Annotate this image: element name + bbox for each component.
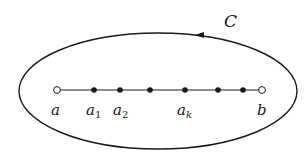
svg-text:a2: a2 <box>113 101 128 120</box>
point-subscript: 2 <box>122 109 128 120</box>
point-label: a <box>113 101 122 119</box>
point-subscript: 1 <box>95 109 101 120</box>
point-label: a <box>177 101 186 119</box>
point-6 <box>215 87 221 93</box>
svg-text:ak: ak <box>177 101 192 120</box>
contour-diagram: C a a1 a2 ak b <box>0 0 307 162</box>
point-a: a <box>51 87 60 119</box>
point-subscript: k <box>186 109 192 120</box>
point-4 <box>147 87 153 93</box>
point-a1: a1 <box>86 87 101 120</box>
point-label: a <box>51 101 60 119</box>
point-label: b <box>257 101 267 119</box>
arrow-icon <box>195 32 204 38</box>
point-7 <box>240 87 246 93</box>
svg-text:a1: a1 <box>86 101 101 120</box>
contour-label: C <box>224 11 237 31</box>
point-ak: ak <box>177 87 192 120</box>
point-label: a <box>86 101 95 119</box>
point-b: b <box>257 87 267 119</box>
point-a2: a2 <box>113 87 128 120</box>
